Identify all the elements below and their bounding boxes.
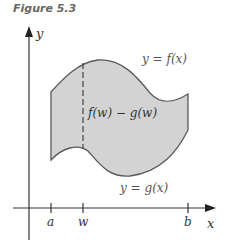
- y-axis-label: y: [35, 26, 44, 41]
- tick-label-b: b: [184, 215, 192, 229]
- x-axis-label: x: [207, 216, 215, 231]
- tick-label-w: w: [78, 215, 89, 229]
- segment-length-label: f(w) − g(w): [87, 106, 157, 120]
- lower-curve-label: y = g(x): [119, 181, 169, 195]
- area-between-curves-diagram: y x a w b y = f(x) y = g(x) f(w) − g(w): [0, 0, 226, 249]
- upper-curve-label: y = f(x): [141, 52, 187, 66]
- x-axis-arrow-icon: [205, 204, 216, 212]
- y-axis-arrow-icon: [25, 26, 33, 37]
- tick-label-a: a: [47, 215, 54, 229]
